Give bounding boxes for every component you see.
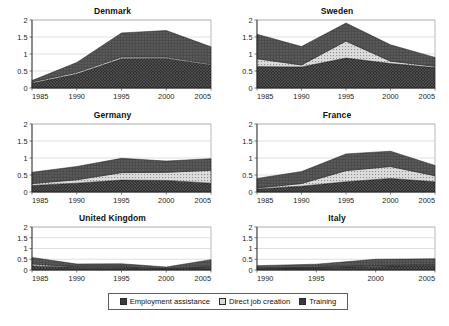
x-tick-label: 2000 (158, 92, 174, 101)
y-tick-label: 0.5 (17, 255, 27, 264)
plot-area: 00.511.5219851990199520002005 (0, 120, 225, 207)
x-tick-label: 2005 (419, 274, 435, 283)
y-tick-label: 1 (248, 50, 252, 59)
chart-svg: 00.511.5219851990199520002005 (0, 120, 225, 208)
x-tick-label: 1990 (293, 92, 309, 101)
chart-svg: 00.511.5219851990199520002005 (0, 223, 225, 286)
x-tick-label: 1990 (257, 274, 273, 283)
legend-item-employment-assistance: Employment assistance (120, 297, 210, 306)
chart-panel-italy: Italy00.511.521990199520002005 (225, 207, 449, 286)
plot-area: 00.511.5219851990199520002005 (0, 223, 225, 286)
y-tick-label: 1.5 (17, 234, 27, 243)
chart-panel-germany: Germany00.511.5219851990199520002005 (0, 104, 225, 207)
y-tick-label: 1 (23, 50, 27, 59)
x-tick-label: 2005 (195, 196, 211, 205)
y-tick-label: 0.5 (17, 171, 27, 180)
panel-title: Italy (225, 213, 449, 223)
y-tick-label: 0.5 (242, 67, 252, 76)
x-tick-label: 2005 (195, 92, 211, 101)
y-tick-label: 2 (248, 120, 252, 129)
y-tick-label: 1 (23, 244, 27, 253)
y-tick-label: 1 (248, 244, 252, 253)
y-tick-label: 0.5 (242, 255, 252, 264)
x-tick-label: 1985 (32, 196, 48, 205)
y-tick-label: 0 (23, 188, 27, 197)
chart-grid: Denmark00.511.5219851990199520002005Swed… (0, 0, 449, 286)
chart-panel-united-kingdom: United Kingdom00.511.5219851990199520002… (0, 207, 225, 286)
y-tick-label: 1.5 (242, 234, 252, 243)
y-tick-label: 0 (23, 84, 27, 93)
legend-swatch-icon (219, 298, 226, 305)
y-tick-label: 0.5 (17, 67, 27, 76)
x-tick-label: 1995 (338, 92, 354, 101)
x-tick-label: 1990 (69, 92, 85, 101)
x-tick-label: 1990 (69, 274, 85, 283)
plot-area: 00.511.521990199520002005 (225, 223, 449, 286)
x-tick-label: 1985 (257, 196, 273, 205)
y-tick-label: 0 (23, 266, 27, 275)
x-tick-label: 2000 (382, 196, 398, 205)
y-tick-label: 0 (248, 84, 252, 93)
chart-panel-france: France00.511.5219851990199520002005 (225, 104, 449, 207)
legend-item-direct-job-creation: Direct job creation (219, 297, 290, 306)
chart-panel-denmark: Denmark00.511.5219851990199520002005 (0, 0, 225, 104)
legend-label: Direct job creation (229, 297, 290, 306)
y-tick-label: 0 (248, 188, 252, 197)
x-tick-label: 1985 (257, 92, 273, 101)
x-tick-label: 1985 (32, 274, 48, 283)
x-tick-label: 2005 (419, 92, 435, 101)
legend-item-training: Training (299, 297, 336, 306)
x-tick-label: 2000 (367, 274, 383, 283)
panel-title: Germany (0, 110, 225, 120)
plot-area: 00.511.5219851990199520002005 (225, 120, 449, 207)
panel-title: France (225, 110, 449, 120)
y-tick-label: 2 (23, 16, 27, 25)
y-tick-label: 1.5 (242, 137, 252, 146)
x-tick-label: 1990 (69, 196, 85, 205)
y-tick-label: 1 (23, 154, 27, 163)
chart-svg: 00.511.5219851990199520002005 (225, 16, 449, 104)
chart-svg: 00.511.521990199520002005 (225, 223, 449, 286)
panel-title: United Kingdom (0, 213, 225, 223)
x-tick-label: 1995 (113, 92, 129, 101)
x-tick-label: 1995 (113, 196, 129, 205)
chart-panel-sweden: Sweden00.511.5219851990199520002005 (225, 0, 449, 104)
y-tick-label: 0.5 (242, 171, 252, 180)
x-tick-label: 2000 (158, 196, 174, 205)
chart-svg: 00.511.5219851990199520002005 (0, 16, 225, 104)
legend-swatch-icon (299, 298, 306, 305)
y-tick-label: 2 (248, 16, 252, 25)
y-tick-label: 0 (248, 266, 252, 275)
y-tick-label: 1.5 (17, 33, 27, 42)
figure-legend: Employment assistanceDirect job creation… (108, 293, 348, 310)
x-tick-label: 1995 (308, 274, 324, 283)
x-tick-label: 1995 (113, 274, 129, 283)
legend-label: Training (309, 297, 336, 306)
x-tick-label: 2000 (382, 92, 398, 101)
chart-svg: 00.511.5219851990199520002005 (225, 120, 449, 208)
y-tick-label: 2 (248, 223, 252, 232)
y-tick-label: 1.5 (17, 137, 27, 146)
panel-title: Sweden (225, 6, 449, 16)
x-tick-label: 1995 (338, 196, 354, 205)
x-tick-label: 2005 (195, 274, 211, 283)
plot-area: 00.511.5219851990199520002005 (225, 16, 449, 104)
panel-title: Denmark (0, 6, 225, 16)
x-tick-label: 2005 (419, 196, 435, 205)
x-tick-label: 1990 (293, 196, 309, 205)
y-tick-label: 2 (23, 223, 27, 232)
legend-swatch-icon (120, 298, 127, 305)
legend-label: Employment assistance (130, 297, 210, 306)
y-tick-label: 2 (23, 120, 27, 129)
x-tick-label: 2000 (158, 274, 174, 283)
x-tick-label: 1985 (32, 92, 48, 101)
y-tick-label: 1 (248, 154, 252, 163)
y-tick-label: 1.5 (242, 33, 252, 42)
plot-area: 00.511.5219851990199520002005 (0, 16, 225, 104)
